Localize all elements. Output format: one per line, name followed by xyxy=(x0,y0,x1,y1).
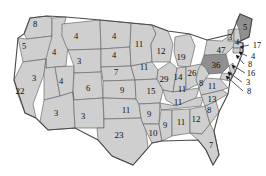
state-value-oh: 26 xyxy=(188,69,197,78)
state-value-wy: 3 xyxy=(77,57,81,66)
state-value-ga: 12 xyxy=(192,115,201,124)
state-value-ok: 11 xyxy=(122,106,131,115)
state-value-wa: 8 xyxy=(33,20,37,29)
state-value-nv: 3 xyxy=(32,74,36,83)
us-choropleth-map: 8522434343634479112311111591012291914261… xyxy=(0,0,266,176)
state-value-sd: 4 xyxy=(112,51,116,60)
state-value-vt: 3 xyxy=(228,33,232,42)
state-value-az: 3 xyxy=(54,109,58,118)
state-value-ut: 4 xyxy=(59,77,63,86)
state-value-me: 5 xyxy=(243,23,247,32)
state-value-fl: 7 xyxy=(209,141,213,150)
state-value-sc: 8 xyxy=(207,106,211,115)
state-shape-mt xyxy=(62,20,101,50)
state-value-mo: 15 xyxy=(147,87,156,96)
state-value-ar: 9 xyxy=(147,110,151,119)
state-value-nh: 4 xyxy=(235,38,239,47)
state-value-ms: 9 xyxy=(163,121,167,130)
state-value-ky: 11 xyxy=(174,98,183,107)
state-value-tn: 11 xyxy=(178,85,187,94)
state-value-ia: 11 xyxy=(140,63,149,72)
state-value-wi: 12 xyxy=(157,47,166,56)
map-geometry xyxy=(0,0,266,176)
state-shape-mi xyxy=(174,34,195,67)
state-value-ny: 47 xyxy=(217,46,226,55)
state-value-ca: 22 xyxy=(16,87,25,96)
state-value-va: 11 xyxy=(208,82,217,91)
state-value-mn: 11 xyxy=(135,40,144,49)
state-value-ne: 7 xyxy=(114,68,118,77)
state-value-pa: 36 xyxy=(212,61,221,70)
state-value-tx: 23 xyxy=(115,131,124,140)
state-value-nd: 4 xyxy=(112,32,116,41)
state-shape-tx xyxy=(97,118,148,165)
state-value-il: 29 xyxy=(160,75,169,84)
state-value-mt: 4 xyxy=(74,32,78,41)
state-value-nm: 3 xyxy=(81,112,85,121)
leader-value-ma: 17 xyxy=(253,41,262,50)
state-shape-wi xyxy=(151,25,173,62)
state-value-in: 14 xyxy=(174,73,183,82)
state-value-la: 10 xyxy=(149,129,158,138)
state-value-ks: 9 xyxy=(120,86,124,95)
leader-value-md: 8 xyxy=(247,87,251,96)
state-shape-wa xyxy=(24,16,52,39)
state-value-id: 4 xyxy=(52,48,56,57)
state-value-or: 5 xyxy=(22,42,26,51)
state-value-mi: 19 xyxy=(177,53,186,62)
state-value-co: 6 xyxy=(86,84,90,93)
state-value-nc: 13 xyxy=(208,95,217,104)
state-value-al: 11 xyxy=(177,118,186,127)
state-value-wv: 8 xyxy=(199,79,203,88)
